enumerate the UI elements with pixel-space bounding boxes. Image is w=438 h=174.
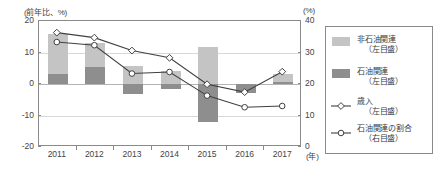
data-point-marker <box>204 81 211 88</box>
data-point-marker <box>91 34 98 41</box>
legend-label: 歳入（左目盛） <box>357 97 403 117</box>
data-point-marker <box>279 103 285 109</box>
legend-line-marker <box>330 124 352 133</box>
legend-label: 石油関連（左目盛） <box>357 67 403 87</box>
data-point-marker <box>338 130 344 136</box>
data-point-marker <box>242 104 248 110</box>
data-point-marker <box>167 69 173 75</box>
data-point-marker <box>338 103 345 110</box>
data-point-marker <box>279 68 286 75</box>
legend-label: 非石油関連（左目盛） <box>357 35 403 55</box>
legend-color-swatch <box>332 69 350 78</box>
legend-line-marker <box>330 97 352 106</box>
chart-container: (前年比、%) (%) (年) 20100-10-204030201002011… <box>0 0 438 174</box>
data-point-marker <box>204 93 210 99</box>
data-point-marker <box>53 29 60 36</box>
data-point-marker <box>129 71 135 77</box>
data-point-marker <box>166 54 173 61</box>
legend-color-swatch <box>332 37 350 46</box>
line-path <box>57 33 282 93</box>
legend-label: 石油関連の割合（右目盛） <box>357 124 412 144</box>
data-point-marker <box>241 89 248 96</box>
data-point-marker <box>129 47 136 54</box>
chart-legend: 非石油関連（左目盛）石油関連（左目盛）歳入（左目盛）石油関連の割合（右目盛） <box>325 26 433 154</box>
data-point-marker <box>92 42 98 48</box>
data-point-marker <box>54 39 60 45</box>
